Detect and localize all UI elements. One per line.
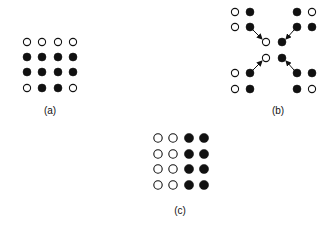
- filled-dot: [38, 68, 46, 76]
- filled-dot: [69, 53, 77, 61]
- open-dot: [23, 38, 30, 45]
- open-dot: [308, 8, 315, 15]
- filled-dot: [54, 53, 62, 61]
- open-dot: [169, 165, 177, 173]
- filled-dot: [278, 54, 286, 62]
- filled-dot: [293, 8, 301, 16]
- filled-dot: [246, 85, 254, 93]
- filled-dot: [69, 68, 77, 76]
- arrow-icon: [253, 61, 262, 70]
- arrow-icon: [286, 30, 294, 39]
- filled-dot: [199, 133, 208, 142]
- filled-dot: [23, 68, 31, 76]
- filled-dot: [54, 84, 62, 92]
- filled-dot: [38, 84, 46, 92]
- filled-dot: [246, 23, 254, 31]
- open-dot: [69, 38, 76, 45]
- filled-dot: [184, 133, 193, 142]
- filled-dot: [23, 53, 31, 61]
- filled-dot: [293, 85, 301, 93]
- open-dot: [262, 54, 269, 61]
- open-dot: [38, 38, 45, 45]
- filled-dot: [308, 69, 316, 77]
- filled-dot: [199, 149, 208, 158]
- open-dot: [231, 85, 238, 92]
- open-dot: [231, 8, 238, 15]
- filled-dot: [278, 38, 286, 46]
- open-dot: [54, 38, 61, 45]
- panel-c-label: (c): [174, 205, 186, 216]
- open-dot: [169, 150, 177, 158]
- arrow-icon: [286, 61, 294, 70]
- open-dot: [262, 38, 269, 45]
- panel-a: [23, 38, 77, 92]
- filled-dot: [54, 68, 62, 76]
- open-dot: [69, 84, 76, 91]
- panel-c: [154, 133, 209, 189]
- filled-dot: [199, 180, 208, 189]
- filled-dot: [199, 164, 208, 173]
- filled-dot: [184, 149, 193, 158]
- filled-dot: [308, 23, 316, 31]
- arrow-icon: [253, 30, 262, 39]
- panel-b-label: (b): [272, 105, 284, 116]
- filled-dot: [38, 53, 46, 61]
- panel-b: [231, 8, 316, 93]
- open-dot: [231, 23, 238, 30]
- filled-dot: [184, 180, 193, 189]
- open-dot: [154, 134, 162, 142]
- filled-dot: [246, 69, 254, 77]
- panel-a-label: (a): [44, 105, 56, 116]
- open-dot: [154, 165, 162, 173]
- filled-dot: [184, 164, 193, 173]
- open-dot: [169, 134, 177, 142]
- open-dot: [154, 150, 162, 158]
- open-dot: [169, 181, 177, 189]
- filled-dot: [293, 23, 301, 31]
- open-dot: [308, 85, 315, 92]
- open-dot: [231, 69, 238, 76]
- filled-dot: [293, 69, 301, 77]
- open-dot: [154, 181, 162, 189]
- open-dot: [23, 84, 30, 91]
- filled-dot: [246, 8, 254, 16]
